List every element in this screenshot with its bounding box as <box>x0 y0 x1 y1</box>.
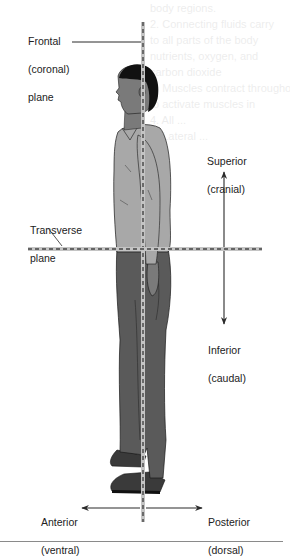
superior-term: Superior <box>207 154 247 168</box>
frontal-label-line: Frontal <box>28 34 69 48</box>
posterior-label: Posterior (dorsal) <box>208 501 250 560</box>
frontal-plane-line <box>141 22 145 522</box>
posterior-term: Posterior <box>208 515 250 529</box>
frontal-label-line: plane <box>28 90 69 104</box>
posterior-synonym: (dorsal) <box>208 543 250 557</box>
anterior-term: Anterior <box>41 515 80 529</box>
superior-synonym: (cranial) <box>207 182 247 196</box>
inferior-term: Inferior <box>208 343 246 357</box>
inferior-label: Inferior (caudal) <box>208 329 246 399</box>
anterior-synonym: (ventral) <box>41 543 80 557</box>
inferior-synonym: (caudal) <box>208 371 246 385</box>
transverse-plane-label: Transverse plane <box>30 209 82 279</box>
transverse-label-line: plane <box>30 251 82 265</box>
bottom-divider <box>0 541 283 542</box>
frontal-plane-label: Frontal (coronal) plane <box>28 20 69 118</box>
frontal-label-line: (coronal) <box>28 62 69 76</box>
transverse-label-line: Transverse <box>30 223 82 237</box>
anterior-label: Anterior (ventral) <box>41 501 80 560</box>
human-figure <box>110 64 170 494</box>
superior-label: Superior (cranial) <box>207 140 247 210</box>
